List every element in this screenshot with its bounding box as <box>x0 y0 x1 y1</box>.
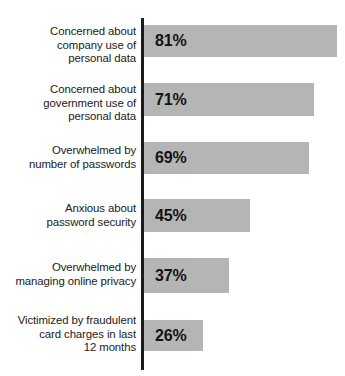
bar-value-label: 71% <box>155 91 186 109</box>
bar-chart: Concerned about company use of personal … <box>0 0 345 376</box>
bar-value-label: 81% <box>155 32 186 50</box>
bar: 81% <box>144 25 337 57</box>
category-label: Anxious about password security <box>47 202 136 229</box>
bar-value-label: 37% <box>155 267 186 285</box>
bar: 69% <box>144 142 309 174</box>
category-axis-line <box>141 18 144 370</box>
bar: 45% <box>144 199 250 232</box>
bar-value-label: 45% <box>155 207 186 225</box>
bar: 26% <box>144 320 203 351</box>
bar-value-label: 26% <box>155 327 186 345</box>
category-label: Overwhelmed by number of passwords <box>29 144 136 171</box>
category-label: Concerned about company use of personal … <box>50 25 136 66</box>
bar: 71% <box>144 83 314 116</box>
chart-title-clipped <box>0 0 345 10</box>
bar-value-label: 69% <box>155 149 186 167</box>
category-label: Overwhelmed by managing online privacy <box>15 261 136 288</box>
bar: 37% <box>144 258 229 293</box>
category-label: Concerned about government use of person… <box>43 83 136 124</box>
category-label: Victimized by fraudulent card charges in… <box>18 314 136 355</box>
